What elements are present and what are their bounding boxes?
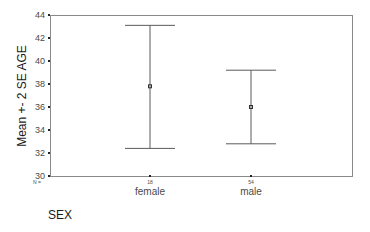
x-tick-mark xyxy=(250,175,252,177)
y-tick-mark xyxy=(48,14,50,16)
y-tick-label: 34 xyxy=(35,125,45,135)
x-category-label: male xyxy=(240,186,262,197)
y-tick-mark xyxy=(48,106,50,108)
y-tick-label: 36 xyxy=(35,102,45,112)
n-count-label: 18 xyxy=(147,179,153,185)
y-tick-mark xyxy=(48,129,50,131)
error-bar-chart: 3032343638404244 18female54male Mean +- … xyxy=(0,0,370,232)
y-tick-label: 44 xyxy=(35,10,45,20)
error-bars xyxy=(125,25,276,148)
error-bar-female xyxy=(125,25,175,148)
y-tick-label: 40 xyxy=(35,56,45,66)
y-tick-label: 42 xyxy=(35,33,45,43)
error-bar-male xyxy=(226,70,276,144)
y-axis-title: Mean +- 2 SE AGE xyxy=(15,45,29,147)
x-tick-mark xyxy=(149,175,151,177)
x-axis-title: SEX xyxy=(48,208,72,222)
n-label: N = xyxy=(33,179,41,185)
x-axis: 18female54male xyxy=(135,175,262,197)
y-tick-mark xyxy=(48,60,50,62)
y-tick-mark xyxy=(48,37,50,39)
y-tick-mark xyxy=(48,152,50,154)
plot-frame xyxy=(51,16,353,177)
n-count-label: 54 xyxy=(248,179,254,185)
y-tick-label: 32 xyxy=(35,148,45,158)
x-category-label: female xyxy=(135,186,165,197)
y-tick-mark xyxy=(48,175,50,177)
y-axis: 3032343638404244 xyxy=(35,10,50,181)
y-tick-label: 38 xyxy=(35,79,45,89)
y-tick-mark xyxy=(48,83,50,85)
